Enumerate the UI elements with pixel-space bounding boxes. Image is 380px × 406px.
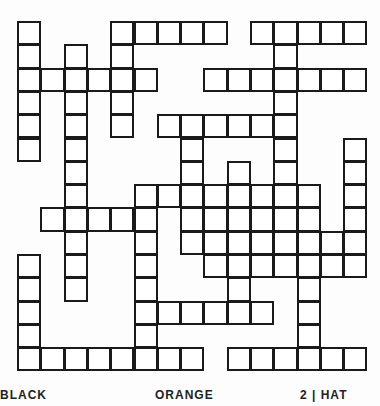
crossword-cell[interactable] [157,347,181,371]
crossword-cell[interactable] [250,207,274,231]
crossword-cell[interactable] [17,277,41,301]
crossword-cell[interactable] [157,184,181,208]
crossword-cell[interactable] [297,184,321,208]
crossword-cell[interactable] [110,21,134,45]
crossword-cell[interactable] [297,207,321,231]
crossword-cell[interactable] [64,161,88,185]
crossword-cell[interactable] [180,184,204,208]
crossword-cell[interactable] [17,21,41,45]
crossword-cell[interactable] [180,114,204,138]
crossword-cell[interactable] [180,207,204,231]
crossword-cell[interactable] [320,231,344,255]
crossword-cell[interactable] [227,161,251,185]
crossword-cell[interactable] [320,254,344,278]
crossword-cell[interactable] [250,184,274,208]
crossword-cell[interactable] [17,347,41,371]
crossword-cell[interactable] [203,207,227,231]
crossword-cell[interactable] [297,347,321,371]
crossword-cell[interactable] [227,301,251,325]
crossword-cell[interactable] [180,231,204,255]
crossword-cell[interactable] [320,68,344,92]
crossword-cell[interactable] [203,68,227,92]
crossword-cell[interactable] [227,231,251,255]
crossword-cell[interactable] [273,161,297,185]
crossword-cell[interactable] [64,44,88,68]
crossword-cell[interactable] [64,231,88,255]
crossword-cell[interactable] [273,207,297,231]
crossword-cell[interactable] [180,347,204,371]
crossword-cell[interactable] [17,324,41,348]
crossword-cell[interactable] [40,207,64,231]
crossword-cell[interactable] [343,347,367,371]
crossword-cell[interactable] [273,44,297,68]
crossword-cell[interactable] [203,231,227,255]
crossword-cell[interactable] [343,21,367,45]
crossword-cell[interactable] [250,347,274,371]
crossword-cell[interactable] [17,44,41,68]
crossword-cell[interactable] [250,68,274,92]
crossword-cell[interactable] [273,231,297,255]
crossword-cell[interactable] [227,347,251,371]
crossword-cell[interactable] [297,254,321,278]
crossword-cell[interactable] [250,114,274,138]
crossword-cell[interactable] [203,184,227,208]
crossword-cell[interactable] [180,161,204,185]
crossword-cell[interactable] [297,277,321,301]
crossword-cell[interactable] [297,231,321,255]
crossword-cell[interactable] [64,68,88,92]
crossword-cell[interactable] [343,254,367,278]
crossword-cell[interactable] [17,91,41,115]
crossword-cell[interactable] [17,114,41,138]
crossword-cell[interactable] [87,347,111,371]
crossword-cell[interactable] [110,91,134,115]
crossword-cell[interactable] [343,207,367,231]
crossword-cell[interactable] [273,91,297,115]
crossword-cell[interactable] [273,254,297,278]
crossword-cell[interactable] [64,254,88,278]
crossword-cell[interactable] [320,21,344,45]
crossword-cell[interactable] [134,347,158,371]
crossword-cell[interactable] [273,184,297,208]
crossword-cell[interactable] [273,21,297,45]
crossword-cell[interactable] [157,21,181,45]
crossword-cell[interactable] [297,301,321,325]
crossword-cell[interactable] [157,114,181,138]
crossword-cell[interactable] [110,347,134,371]
crossword-cell[interactable] [134,184,158,208]
crossword-cell[interactable] [64,114,88,138]
crossword-cell[interactable] [17,68,41,92]
crossword-cell[interactable] [227,68,251,92]
crossword-cell[interactable] [17,254,41,278]
crossword-cell[interactable] [297,68,321,92]
crossword-cell[interactable] [134,254,158,278]
crossword-cell[interactable] [64,277,88,301]
crossword-cell[interactable] [134,277,158,301]
crossword-cell[interactable] [273,347,297,371]
crossword-cell[interactable] [273,68,297,92]
crossword-cell[interactable] [64,138,88,162]
crossword-cell[interactable] [87,68,111,92]
crossword-cell[interactable] [297,21,321,45]
crossword-cell[interactable] [227,277,251,301]
crossword-cell[interactable] [180,138,204,162]
crossword-cell[interactable] [64,207,88,231]
crossword-cell[interactable] [110,114,134,138]
crossword-cell[interactable] [64,347,88,371]
crossword-cell[interactable] [343,138,367,162]
crossword-cell[interactable] [273,114,297,138]
crossword-cell[interactable] [134,301,158,325]
crossword-cell[interactable] [40,68,64,92]
crossword-cell[interactable] [87,207,111,231]
crossword-cell[interactable] [203,254,227,278]
crossword-cell[interactable] [297,324,321,348]
crossword-cell[interactable] [180,21,204,45]
crossword-cell[interactable] [273,138,297,162]
crossword-cell[interactable] [227,114,251,138]
crossword-cell[interactable] [134,68,158,92]
crossword-cell[interactable] [110,68,134,92]
crossword-cell[interactable] [227,254,251,278]
crossword-cell[interactable] [250,21,274,45]
crossword-cell[interactable] [64,184,88,208]
crossword-cell[interactable] [40,347,64,371]
crossword-cell[interactable] [110,44,134,68]
